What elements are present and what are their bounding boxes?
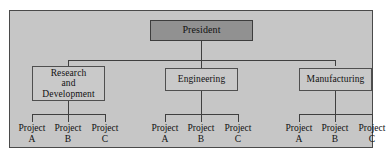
connector-rnd-project-b bbox=[68, 114, 69, 122]
leaf-manufacturing-project-b[interactable]: Project B bbox=[314, 123, 356, 144]
connector-manufacturing-project-a bbox=[299, 114, 300, 122]
leaf-rnd-project-c[interactable]: Project C bbox=[84, 123, 126, 144]
node-research-and-development[interactable]: Research and Development bbox=[32, 66, 105, 101]
connector-engineering-project-b bbox=[201, 114, 202, 122]
connector-engineering-project-c bbox=[238, 114, 239, 122]
connector-rnd-project-a bbox=[32, 114, 33, 122]
connector-president-stem bbox=[201, 41, 202, 60]
connector-engineering-stem bbox=[201, 91, 202, 114]
connector-manufacturing-project-c bbox=[372, 114, 373, 122]
node-research-and-development-label: Research and Development bbox=[42, 68, 94, 99]
connector-manufacturing-stem bbox=[335, 91, 336, 114]
connector-engineering-project-a bbox=[165, 114, 166, 122]
node-manufacturing[interactable]: Manufacturing bbox=[299, 68, 372, 91]
leaf-engineering-project-c[interactable]: Project C bbox=[217, 123, 259, 144]
node-manufacturing-label: Manufacturing bbox=[307, 74, 365, 84]
leaf-manufacturing-project-c[interactable]: Project C bbox=[351, 123, 390, 144]
chart-panel: President Research and Development Engin… bbox=[9, 10, 373, 148]
connector-manufacturing-project-b bbox=[335, 114, 336, 122]
leaf-engineering-project-b[interactable]: Project B bbox=[180, 123, 222, 144]
node-engineering-label: Engineering bbox=[178, 74, 226, 84]
node-president[interactable]: President bbox=[150, 20, 253, 41]
connector-drop-manufacturing bbox=[335, 60, 336, 66]
node-engineering[interactable]: Engineering bbox=[165, 68, 238, 91]
connector-rnd-stem bbox=[68, 101, 69, 114]
leaf-rnd-project-b[interactable]: Project B bbox=[47, 123, 89, 144]
connector-drop-engineering bbox=[201, 60, 202, 68]
connector-rnd-project-c bbox=[105, 114, 106, 122]
node-president-label: President bbox=[182, 25, 220, 36]
